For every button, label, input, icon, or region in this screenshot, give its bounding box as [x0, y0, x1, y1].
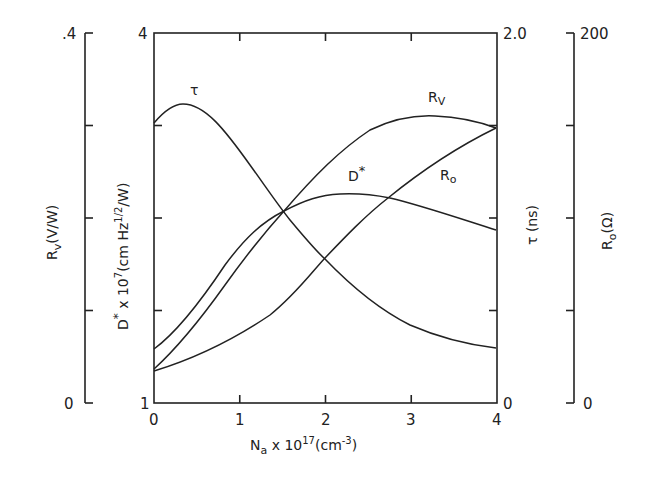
x-axis-title: Na x 1017(cm-3) — [250, 435, 357, 457]
plot-frame — [154, 33, 497, 403]
ro-axis-title: Ro(Ω) — [599, 212, 619, 250]
rv-bottom-label: 0 — [64, 395, 74, 413]
x-tick-1: 1 — [235, 411, 245, 429]
curve-label-dstar: D* — [348, 163, 366, 184]
tau-axis-ticks — [489, 126, 497, 311]
tau-axis-title: τ (ns) — [524, 205, 540, 245]
rv-top-label: .4 — [62, 25, 76, 43]
ro-bottom-label: 0 — [583, 395, 593, 413]
dstar-axis-title: D* x 107(cm Hz1/2/W) — [111, 183, 131, 330]
curve-label-ro: Ro — [440, 167, 457, 186]
ro-axis — [566, 33, 574, 403]
rv-axis-title: Rv(V/W) — [44, 205, 64, 260]
curve-label-tau: τ — [190, 82, 198, 98]
tau-bottom-label: 0 — [503, 395, 513, 413]
chart-canvas: .4 0 4 1 2.0 0 200 0 0 1 2 3 4 Na x 1017… — [0, 0, 647, 483]
rv-axis — [85, 33, 93, 403]
curve-ro — [154, 128, 496, 371]
curve-rv — [154, 116, 496, 369]
dstar-top-label: 4 — [138, 25, 148, 43]
x-tick-4: 4 — [492, 411, 502, 429]
dstar-axis-ticks — [154, 126, 162, 311]
curve-label-rv: RV — [428, 89, 446, 108]
tau-top-label: 2.0 — [503, 25, 527, 43]
x-tick-2: 2 — [321, 411, 331, 429]
x-tick-3: 3 — [406, 411, 416, 429]
ro-top-label: 200 — [580, 25, 609, 43]
curve-dstar — [154, 194, 496, 349]
x-tick-0: 0 — [149, 411, 159, 429]
x-axis-ticks — [240, 33, 412, 403]
